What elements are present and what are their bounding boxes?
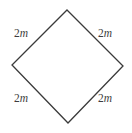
side-label-bottom-right: 2m: [98, 93, 112, 105]
side-label-top-right-variable: m: [104, 27, 112, 39]
side-label-bottom-right-variable: m: [104, 92, 112, 104]
square-outline-shape: [0, 0, 132, 133]
side-label-top-left: 2m: [14, 28, 28, 40]
side-label-top-left-variable: m: [20, 27, 28, 39]
geometry-figure: 2m 2m 2m 2m: [0, 0, 132, 133]
side-label-bottom-left-variable: m: [20, 92, 28, 104]
side-label-top-right: 2m: [98, 28, 112, 40]
side-label-bottom-left: 2m: [14, 93, 28, 105]
